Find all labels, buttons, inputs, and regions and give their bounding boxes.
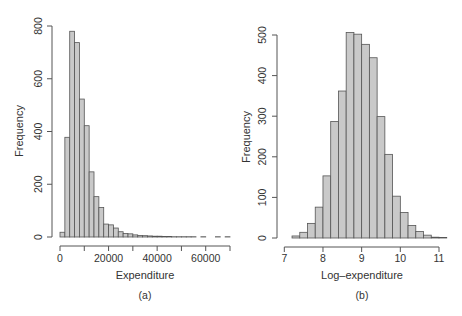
y-axis-title: Frequency [240,111,252,163]
histogram-figure: 0200400600800 0200004000060000 Frequency… [0,0,462,316]
histogram-bar [354,34,362,238]
histogram-bar [118,232,123,237]
x-tick-label: 10 [394,252,406,264]
x-tick-label: 40000 [143,252,172,264]
histogram-bar [431,237,439,238]
histogram-bar [315,207,323,238]
histogram-bar [75,43,80,237]
histogram-bar [123,234,128,237]
histogram-bar [70,31,75,237]
histogram-bar [323,176,331,238]
histogram-bar [147,236,152,237]
histogram-bar [400,212,408,238]
histogram-bar [162,236,167,237]
histogram-bar [94,197,99,237]
histogram-bar [128,234,133,237]
x-axis: 7891011 [281,247,444,264]
y-tick-label: 0 [256,235,268,241]
histogram-bar [133,235,138,237]
x-axis: 0200004000060000 [57,246,230,264]
x-tick-label: 9 [359,252,365,264]
histogram-bar [338,91,346,238]
y-tick-label: 600 [32,70,44,88]
y-axis: 0100200300400500 [256,26,277,241]
histogram-bar [138,235,143,237]
histogram-bar [416,232,424,238]
y-tick-label: 400 [256,67,268,85]
histogram-bar [331,121,339,238]
histogram-bar [346,33,354,238]
histogram-bar [99,207,104,237]
panel-label: (b) [356,289,369,301]
y-axis: 0200400600800 [32,17,52,240]
histogram-bars [60,31,230,237]
y-tick-label: 0 [32,234,44,240]
histogram-bar [385,154,393,238]
y-tick-label: 300 [256,107,268,125]
histogram-bar [109,225,114,237]
y-tick-label: 100 [256,188,268,206]
histogram-bar [393,196,401,238]
x-tick-label: 11 [434,252,445,264]
histogram-bar [167,236,172,237]
histogram-bar [408,225,416,238]
histogram-bar [65,137,70,237]
histogram-bar [292,236,300,238]
y-tick-label: 200 [32,175,44,193]
histogram-bar [113,228,118,237]
y-tick-label: 200 [256,148,268,166]
histogram-bar [377,117,385,238]
histogram-bar [104,224,109,237]
histogram-bars [292,33,447,238]
histogram-bar [152,236,157,237]
histogram-bar [89,172,94,237]
x-tick-label: 20000 [94,252,123,264]
histogram-bar [424,235,432,238]
histogram-bar [369,58,377,238]
histogram-bar [157,236,162,237]
x-axis-title: Expenditure [116,269,175,281]
x-tick-label: 60000 [191,252,220,264]
x-tick-label: 0 [57,252,63,264]
histogram-bar [143,236,148,237]
histogram-bar [308,223,316,238]
histogram-bar [362,44,370,238]
histogram-bar [79,99,84,237]
histogram-bar [84,126,89,237]
histogram-bar [60,232,65,237]
x-tick-label: 8 [320,252,326,264]
y-tick-label: 800 [32,17,44,35]
histogram-bar [300,232,308,238]
y-axis-title: Frequency [13,105,25,157]
y-tick-label: 400 [32,123,44,141]
histogram-expenditure: 0200400600800 0200004000060000 Frequency… [13,17,230,301]
x-tick-label: 7 [281,252,287,264]
x-axis-title: Log–expenditure [321,269,403,281]
histogram-log-expenditure: 0100200300400500 7891011 Frequency Log–e… [240,26,447,301]
panel-label: (a) [139,289,152,301]
y-tick-label: 500 [256,26,268,44]
